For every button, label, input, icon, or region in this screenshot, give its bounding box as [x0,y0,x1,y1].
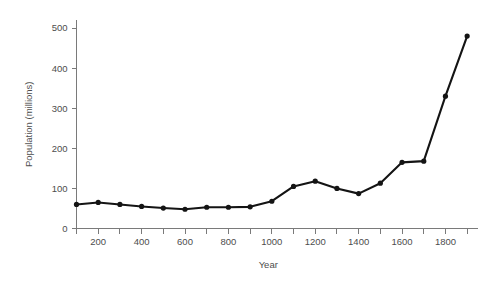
data-point [269,199,274,204]
data-point [204,205,209,210]
data-point [313,179,318,184]
x-tick-label: 600 [177,236,193,247]
data-point [182,207,187,212]
population-line-chart: 0100200300400500 20040060080010001200140… [0,0,496,287]
data-point [378,181,383,186]
data-point [226,205,231,210]
x-tick-label: 1400 [348,236,369,247]
data-point [248,204,253,209]
y-tick-label: 400 [52,63,68,74]
x-tick-label: 200 [90,236,106,247]
x-axis-title: Year [259,259,278,270]
y-tick-label: 100 [52,183,68,194]
chart-background [0,0,496,287]
data-point [334,186,339,191]
data-point [96,200,101,205]
chart-figure: 0100200300400500 20040060080010001200140… [0,0,496,287]
y-tick-label: 200 [52,143,68,154]
x-tick-label: 800 [220,236,236,247]
x-tick-label: 400 [134,236,150,247]
data-point [139,204,144,209]
data-point [465,33,470,38]
data-point [291,184,296,189]
data-point [117,202,122,207]
x-tick-label: 1800 [435,236,456,247]
y-tick-label: 500 [52,22,68,33]
x-tick-label: 1600 [391,236,412,247]
x-tick-label: 1000 [261,236,282,247]
data-point [399,160,404,165]
y-axis-title: Population (millions) [23,81,34,167]
data-point [356,191,361,196]
data-point [161,205,166,210]
data-point [443,94,448,99]
y-tick-label: 300 [52,103,68,114]
y-tick-label: 0 [62,223,67,234]
data-point [421,159,426,164]
x-tick-label: 1200 [305,236,326,247]
data-point [74,202,79,207]
